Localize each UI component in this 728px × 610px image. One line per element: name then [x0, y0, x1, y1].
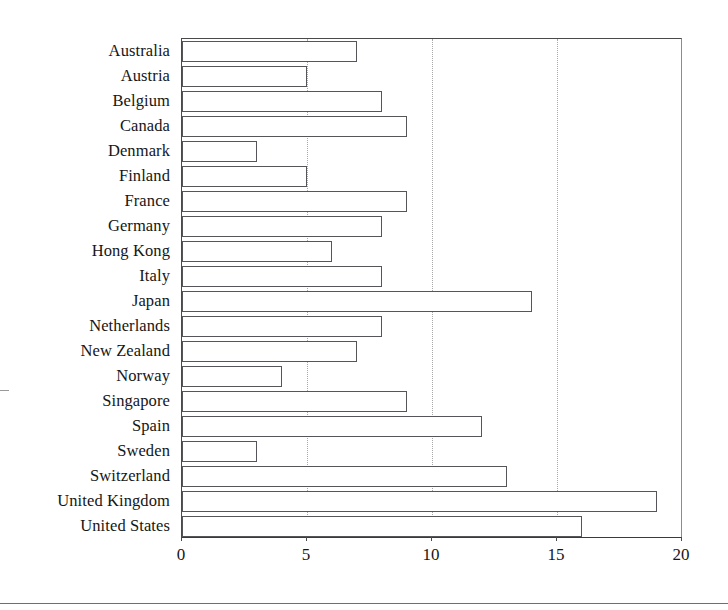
bar	[182, 466, 507, 487]
category-label: Hong Kong	[0, 238, 170, 263]
category-label: Italy	[0, 263, 170, 288]
plot-area	[181, 38, 682, 538]
bar-row	[182, 114, 681, 139]
bottom-horizontal-rule	[0, 603, 728, 604]
x-axis-tick-labels: 05101520	[181, 543, 682, 571]
bar	[182, 66, 307, 87]
bar	[182, 241, 332, 262]
bar	[182, 291, 532, 312]
left-margin-rule	[0, 390, 9, 391]
x-tick-label: 0	[177, 543, 186, 567]
bar-row	[182, 339, 681, 364]
bar	[182, 316, 382, 337]
category-label: Germany	[0, 213, 170, 238]
bar	[182, 166, 307, 187]
category-axis-labels: AustraliaAustriaBelgiumCanadaDenmarkFinl…	[0, 38, 176, 538]
category-label: Spain	[0, 413, 170, 438]
bar-row	[182, 489, 681, 514]
bar-row	[182, 314, 681, 339]
bar-row	[182, 439, 681, 464]
bar	[182, 491, 657, 512]
bar-row	[182, 189, 681, 214]
category-label: United Kingdom	[0, 488, 170, 513]
bar-row	[182, 89, 681, 114]
category-label: France	[0, 188, 170, 213]
x-axis-tick-marks	[181, 537, 682, 542]
bar	[182, 91, 382, 112]
bar	[182, 116, 407, 137]
bar	[182, 216, 382, 237]
bar	[182, 416, 482, 437]
category-label: New Zealand	[0, 338, 170, 363]
bar-row	[182, 464, 681, 489]
bar-row	[182, 364, 681, 389]
bar	[182, 141, 257, 162]
bar-row	[182, 214, 681, 239]
category-label: Sweden	[0, 438, 170, 463]
bar-row	[182, 514, 681, 539]
category-label: Belgium	[0, 88, 170, 113]
x-tick-label: 5	[302, 543, 311, 567]
bar-chart: AustraliaAustriaBelgiumCanadaDenmarkFinl…	[0, 0, 728, 610]
x-tick-mark	[556, 537, 557, 541]
bar-row	[182, 64, 681, 89]
bar-row	[182, 139, 681, 164]
bar	[182, 441, 257, 462]
category-label: Australia	[0, 38, 170, 63]
bar	[182, 366, 282, 387]
x-tick-label: 10	[423, 543, 440, 567]
category-label: Singapore	[0, 388, 170, 413]
bar	[182, 191, 407, 212]
category-label: Switzerland	[0, 463, 170, 488]
x-tick-mark	[306, 537, 307, 541]
bar-row	[182, 414, 681, 439]
category-label: Finland	[0, 163, 170, 188]
bar-row	[182, 264, 681, 289]
bar	[182, 391, 407, 412]
x-tick-label: 20	[673, 543, 690, 567]
category-label: Norway	[0, 363, 170, 388]
bars-layer	[182, 39, 681, 537]
category-label: Netherlands	[0, 313, 170, 338]
bar-row	[182, 164, 681, 189]
category-label: Japan	[0, 288, 170, 313]
bar-row	[182, 39, 681, 64]
x-tick-mark	[181, 537, 182, 541]
bar-row	[182, 239, 681, 264]
category-label: United States	[0, 513, 170, 538]
x-tick-mark	[681, 537, 682, 541]
x-tick-mark	[431, 537, 432, 541]
bar	[182, 41, 357, 62]
bar	[182, 516, 582, 537]
category-label: Denmark	[0, 138, 170, 163]
bar	[182, 341, 357, 362]
bar	[182, 266, 382, 287]
bar-row	[182, 389, 681, 414]
bar-row	[182, 289, 681, 314]
category-label: Canada	[0, 113, 170, 138]
x-tick-label: 15	[548, 543, 565, 567]
category-label: Austria	[0, 63, 170, 88]
